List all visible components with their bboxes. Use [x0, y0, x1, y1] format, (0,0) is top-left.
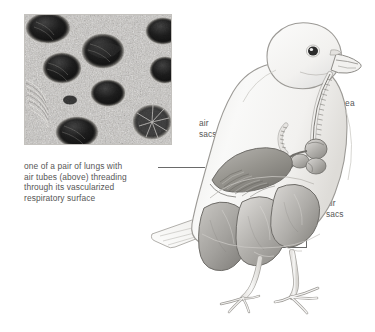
bird-eye: [308, 46, 318, 55]
bird-respiratory-system-figure: one of a pair of lungs with air tubes (a…: [0, 0, 375, 332]
bird-svg: [150, 20, 375, 332]
bird-illustration: [150, 20, 375, 332]
bird-head: [267, 23, 361, 89]
